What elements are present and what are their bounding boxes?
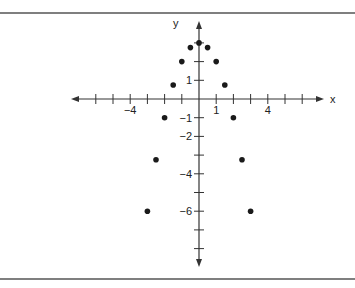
y-axis-label: y bbox=[173, 17, 179, 29]
y-axis-bottom-arrow bbox=[196, 259, 202, 267]
data-point bbox=[162, 115, 168, 121]
tick-labels: −4141−1−2−4−6 bbox=[124, 74, 271, 217]
data-point bbox=[179, 59, 185, 65]
data-point bbox=[231, 115, 237, 121]
data-point bbox=[196, 40, 202, 46]
x-axis-left-arrow bbox=[71, 96, 79, 102]
x-tick-label: −4 bbox=[124, 104, 137, 116]
x-axis-right-arrow bbox=[316, 96, 324, 102]
data-point bbox=[170, 82, 176, 88]
x-tick-label: 4 bbox=[265, 104, 271, 116]
data-point bbox=[248, 208, 254, 214]
y-tick-label: −6 bbox=[179, 205, 192, 217]
y-tick-label: −1 bbox=[179, 112, 192, 124]
data-point bbox=[222, 82, 228, 88]
y-tick-label: −2 bbox=[179, 130, 192, 142]
data-point bbox=[213, 59, 219, 65]
data-point bbox=[145, 208, 151, 214]
data-point bbox=[205, 45, 211, 51]
x-axis-label: x bbox=[330, 93, 336, 105]
data-point bbox=[239, 157, 245, 163]
scatter-chart: −4141−1−2−4−6 x y bbox=[0, 0, 355, 288]
x-tick-label: 1 bbox=[213, 104, 219, 116]
data-point bbox=[188, 45, 194, 51]
y-tick-label: 1 bbox=[186, 74, 192, 86]
data-point bbox=[153, 157, 159, 163]
y-axis-top-arrow bbox=[196, 21, 202, 29]
y-tick-label: −4 bbox=[179, 168, 192, 180]
